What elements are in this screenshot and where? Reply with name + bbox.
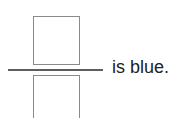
fraction-bar: [8, 69, 103, 71]
sentence-suffix-text: is blue.: [112, 58, 169, 76]
denominator-answer-box[interactable]: [33, 75, 80, 118]
numerator-answer-box[interactable]: [33, 16, 80, 65]
